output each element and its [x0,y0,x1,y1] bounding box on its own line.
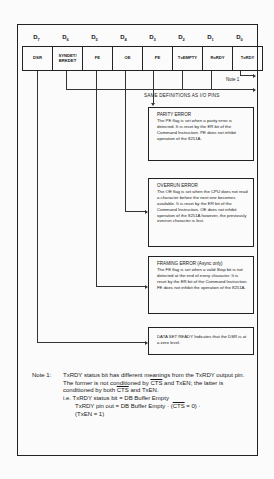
bit-label-d5: D5 [80,34,109,42]
arrow-icon [253,74,256,78]
bit-fe: FE [83,47,113,70]
dsr-title: DATA SET READY [157,334,193,339]
note-text: and TxEN. [129,387,159,393]
bit-dsr: DSR [23,47,53,70]
bit-label-d4: D4 [109,34,138,42]
bit-pe: PE [143,47,173,70]
cts-signal: CTS [150,380,162,386]
note-1: Note 1: TxRDY status bit has different m… [32,372,254,418]
dsr-connector [37,71,38,343]
cts-signal: CTS [117,387,129,393]
fe-connector-h [96,286,146,287]
note-label: Note 1: [32,372,51,380]
parity-error-text: The PE flag is set when a parity error i… [157,118,236,141]
arrow-icon [151,103,155,106]
data-set-ready-box: DATA SET READY Indicates that the DSR is… [148,327,254,355]
status-register: DSR SYNDET/ BRKDET FE OE PE TxEMPTY RxRD… [22,46,263,71]
pe-connector [153,71,154,104]
equation-text: TxRDY pin out = DB Buffer Empty · ( [75,403,173,409]
overrun-error-box: OVERRUN ERROR The OE flag is set when th… [148,178,254,247]
bit-oe: OE [113,47,143,70]
arrow-icon [253,88,256,92]
bit-label-d2: D2 [167,34,196,42]
bit-txempty: TxEMPTY [173,47,203,70]
bit-syndet-brkdet: SYNDET/ BRKDET [53,47,83,70]
bit-label-d6: D6 [51,34,80,42]
note-ie-line: i.e. TxRDY status bit = DB Buffer Empty [63,395,254,403]
bit-txrdy: TxRDY [233,47,262,70]
txempty-connector [182,71,183,89]
note1-tag: Note 1 [226,77,239,82]
same-definitions-label: SAME DEFINITIONS AS I/O PINS [144,93,220,98]
rxrdy-connector [211,71,212,89]
framing-error-box: FRAMING ERROR (Async only) The FE flag i… [148,256,254,314]
syndet-connector [66,71,67,89]
parity-error-box: PARITY ERROR The PE flag is set when a p… [148,107,254,161]
oe-connector-h [125,211,146,212]
bit-label-d7: D7 [22,34,51,42]
note-pin-equation: TxRDY pin out = DB Buffer Empty · (CTS =… [75,403,254,411]
note1-connector-h [240,75,254,76]
oe-connector [125,71,126,212]
cts-signal: CTS [173,403,185,409]
equation-text: = 0) · [185,403,201,409]
bit-label-d3: D3 [138,34,167,42]
overrun-error-text: The OE flag is set when the CPU does not… [157,189,248,224]
framing-error-text: The FE flag is set when a valid Stop bit… [157,267,248,290]
note-pin-equation-cont: (TxEN = 1) [75,411,254,419]
bit-rxrdy: RxRDY [203,47,233,70]
bit-label-d0: D0 [225,34,254,42]
fe-connector [96,71,97,287]
io-pins-bus [66,89,254,90]
bit-label-d1: D1 [196,34,225,42]
dsr-connector-h [37,342,146,343]
